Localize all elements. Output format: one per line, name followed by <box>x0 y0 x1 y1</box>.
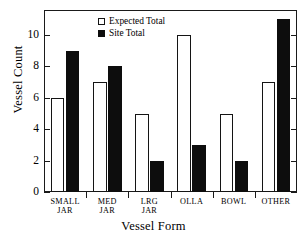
bar-site-total <box>150 161 164 192</box>
x-axis-title-text: Vessel Form <box>0 219 307 234</box>
x-category-label: MED JAR <box>86 198 128 215</box>
y-tick-label: 2 <box>13 155 39 167</box>
legend-item: Expected Total <box>98 16 165 27</box>
bar-expected-total <box>93 82 107 192</box>
bar-site-total <box>235 161 249 192</box>
x-category-label: OTHER <box>255 198 297 207</box>
bar-expected-total <box>220 114 234 192</box>
bar-expected-total <box>51 98 65 192</box>
bar-chart-figure: Vessel Count 0246810 SMALL JARMED JARLRG… <box>0 0 307 239</box>
bar-expected-total <box>177 35 191 192</box>
y-tick-label: 8 <box>13 60 39 72</box>
bar-expected-total <box>135 114 149 192</box>
bar-site-total <box>192 145 206 192</box>
y-tick-label: 4 <box>13 123 39 135</box>
y-tick-mark-right <box>291 192 297 193</box>
y-tick-label: 6 <box>13 92 39 104</box>
y-tick-label: 10 <box>13 29 39 41</box>
filled-square-icon <box>98 30 105 37</box>
x-category-label: OLLA <box>171 198 213 207</box>
legend-label: Expected Total <box>109 16 165 27</box>
bar-site-total <box>66 51 80 192</box>
bar-site-total <box>277 19 291 192</box>
legend-label: Site Total <box>109 28 145 39</box>
x-category-label: BOWL <box>213 198 255 207</box>
y-tick-mark <box>44 192 50 193</box>
bar-site-total <box>108 66 122 192</box>
open-square-icon <box>98 18 105 25</box>
y-tick-label: 0 <box>13 186 39 198</box>
plot-area <box>44 10 297 192</box>
legend-item: Site Total <box>98 28 165 39</box>
bar-expected-total <box>262 82 276 192</box>
chart-legend: Expected TotalSite Total <box>98 16 165 40</box>
x-category-label: SMALL JAR <box>44 198 86 215</box>
x-category-label: LRG JAR <box>128 198 170 215</box>
